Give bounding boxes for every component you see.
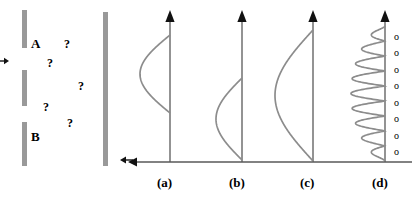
wavefunction-curve-a bbox=[140, 35, 170, 113]
panel-a bbox=[140, 10, 175, 162]
node-marker: o bbox=[394, 147, 399, 157]
panel-label-b: (b) bbox=[229, 176, 245, 189]
wavefunction-curve-d bbox=[351, 26, 385, 161]
wavefunction-curve-b bbox=[216, 78, 242, 160]
physics-figure: A B ? ? ? ? ? bbox=[0, 0, 416, 198]
wavefunction-curve-c bbox=[275, 30, 313, 161]
vertical-axis-arrowhead-d bbox=[380, 10, 389, 22]
node-marker: o bbox=[394, 98, 399, 108]
panel-d bbox=[351, 10, 390, 162]
node-marker: o bbox=[394, 81, 399, 91]
panel-b bbox=[216, 10, 247, 162]
node-marker: o bbox=[394, 131, 399, 141]
panel-c bbox=[275, 10, 318, 162]
node-marker: o bbox=[394, 48, 399, 58]
node-marker: o bbox=[394, 114, 399, 124]
vertical-axis-arrowhead-c bbox=[308, 10, 317, 22]
panel-label-c: (c) bbox=[300, 176, 314, 189]
panel-label-a: (a) bbox=[157, 176, 172, 189]
vertical-axis-arrowhead-a bbox=[165, 10, 174, 22]
node-marker: o bbox=[394, 32, 399, 42]
vertical-axis-arrowhead-b bbox=[237, 10, 246, 22]
node-marker: o bbox=[394, 65, 399, 75]
panel-label-d: (d) bbox=[372, 176, 388, 189]
wavefunction-panels-svg bbox=[0, 0, 416, 198]
